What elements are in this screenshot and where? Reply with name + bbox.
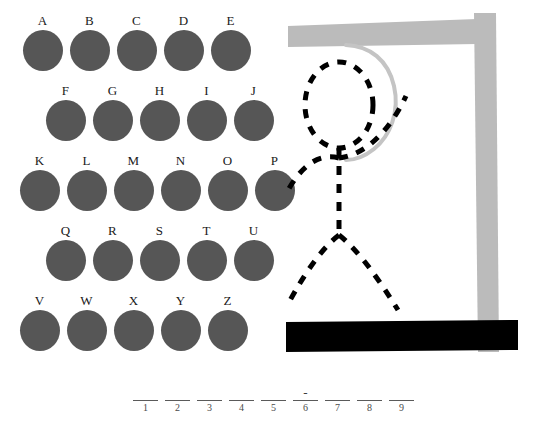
- gallows-beam-shape: [288, 19, 477, 47]
- letter-key-label: Q: [61, 224, 71, 238]
- letter-key-disc[interactable]: [187, 100, 227, 141]
- letter-key-u[interactable]: U: [230, 224, 277, 281]
- letter-key-disc[interactable]: [140, 100, 180, 141]
- letter-key-o[interactable]: O: [204, 154, 251, 211]
- word-blank-line: [229, 400, 254, 401]
- letter-key-label: T: [202, 224, 210, 238]
- letter-key-disc[interactable]: [114, 310, 154, 351]
- letter-key-label: O: [223, 154, 233, 168]
- letter-key-k[interactable]: K: [16, 154, 63, 211]
- blank-strip: 12345-6789: [131, 387, 419, 414]
- letter-row-5: VWXYZ: [16, 294, 251, 351]
- letter-key-disc[interactable]: [140, 240, 180, 281]
- letter-key-b[interactable]: B: [66, 14, 113, 71]
- letter-key-disc[interactable]: [161, 310, 201, 351]
- letter-key-label: D: [179, 14, 189, 28]
- letter-key-l[interactable]: L: [63, 154, 110, 211]
- letter-key-label: R: [108, 224, 117, 238]
- figure-head-shape: [305, 62, 373, 148]
- letter-key-disc[interactable]: [67, 170, 107, 211]
- word-blank-index: 8: [367, 402, 372, 414]
- letter-key-d[interactable]: D: [160, 14, 207, 71]
- word-blank-line: [357, 400, 382, 401]
- figure-left-leg-shape: [287, 235, 339, 306]
- letter-row-3: KLMNOP: [16, 154, 298, 211]
- letter-key-disc[interactable]: [161, 170, 201, 211]
- letter-key-disc[interactable]: [114, 170, 154, 211]
- figure-left-arm-shape: [285, 157, 339, 196]
- letter-key-q[interactable]: Q: [42, 224, 89, 281]
- letter-key-label: W: [80, 294, 92, 308]
- letter-key-j[interactable]: J: [230, 84, 277, 141]
- letter-key-label: Y: [176, 294, 186, 308]
- word-blank-index: 4: [239, 402, 244, 414]
- letter-key-disc[interactable]: [67, 310, 107, 351]
- letter-key-z[interactable]: Z: [204, 294, 251, 351]
- letter-key-label: I: [204, 84, 209, 98]
- letter-key-disc[interactable]: [93, 240, 133, 281]
- letter-key-label: U: [249, 224, 259, 238]
- letter-key-t[interactable]: T: [183, 224, 230, 281]
- letter-key-label: L: [82, 154, 90, 168]
- letter-key-disc[interactable]: [208, 170, 248, 211]
- letter-key-h[interactable]: H: [136, 84, 183, 141]
- ground-bar-shape: [286, 320, 518, 352]
- letter-key-v[interactable]: V: [16, 294, 63, 351]
- word-blank-slot: 9: [387, 387, 416, 414]
- letter-key-disc[interactable]: [46, 100, 86, 141]
- letter-key-r[interactable]: R: [89, 224, 136, 281]
- letter-key-disc[interactable]: [211, 30, 251, 71]
- word-blank-line: [197, 400, 222, 401]
- hangman-game: ABCDEFGHIJKLMNOPQRSTUVWXYZ 12: [0, 0, 538, 427]
- word-blank-slot: 7: [323, 387, 352, 414]
- letter-key-disc[interactable]: [93, 100, 133, 141]
- letter-key-disc[interactable]: [23, 30, 63, 71]
- letter-key-disc[interactable]: [234, 240, 274, 281]
- figure-right-leg-shape: [339, 235, 398, 310]
- word-blank-slot: 5: [259, 387, 288, 414]
- letter-key-disc[interactable]: [20, 310, 60, 351]
- word-blank-slot: 4: [227, 387, 256, 414]
- letter-key-x[interactable]: X: [110, 294, 157, 351]
- word-blank-line: [389, 400, 414, 401]
- letter-key-label: A: [38, 14, 48, 28]
- letter-key-a[interactable]: A: [19, 14, 66, 71]
- word-blank-index: 2: [175, 402, 180, 414]
- letter-key-disc[interactable]: [164, 30, 204, 71]
- letter-row-2: FGHIJ: [42, 84, 277, 141]
- letter-key-disc[interactable]: [20, 170, 60, 211]
- letter-key-label: M: [128, 154, 140, 168]
- word-blank-index: 1: [143, 402, 148, 414]
- letter-key-label: H: [155, 84, 165, 98]
- letter-key-i[interactable]: I: [183, 84, 230, 141]
- letter-key-m[interactable]: M: [110, 154, 157, 211]
- word-blanks: 12345-6789: [0, 368, 538, 427]
- word-blank-line: [133, 400, 158, 401]
- letter-key-disc[interactable]: [117, 30, 157, 71]
- word-blank-line: [325, 400, 350, 401]
- letter-key-disc[interactable]: [46, 240, 86, 281]
- letter-key-label: J: [251, 84, 256, 98]
- letter-key-disc[interactable]: [187, 240, 227, 281]
- word-blank-index: 9: [399, 402, 404, 414]
- letter-key-label: G: [108, 84, 118, 98]
- word-blank-slot: 3: [195, 387, 224, 414]
- letter-key-n[interactable]: N: [157, 154, 204, 211]
- letter-key-y[interactable]: Y: [157, 294, 204, 351]
- letter-key-disc[interactable]: [234, 100, 274, 141]
- letter-key-w[interactable]: W: [63, 294, 110, 351]
- word-blank-line: [293, 400, 318, 401]
- letter-key-disc[interactable]: [70, 30, 110, 71]
- letter-key-label: N: [176, 154, 186, 168]
- letter-key-s[interactable]: S: [136, 224, 183, 281]
- letter-key-label: F: [62, 84, 69, 98]
- word-blank-slot: 1: [131, 387, 160, 414]
- letter-keypad: ABCDEFGHIJKLMNOPQRSTUVWXYZ: [0, 0, 290, 355]
- word-blank-index: 7: [335, 402, 340, 414]
- letter-key-e[interactable]: E: [207, 14, 254, 71]
- letter-key-label: E: [226, 14, 234, 28]
- letter-key-disc[interactable]: [208, 310, 248, 351]
- letter-key-g[interactable]: G: [89, 84, 136, 141]
- letter-key-c[interactable]: C: [113, 14, 160, 71]
- letter-key-f[interactable]: F: [42, 84, 89, 141]
